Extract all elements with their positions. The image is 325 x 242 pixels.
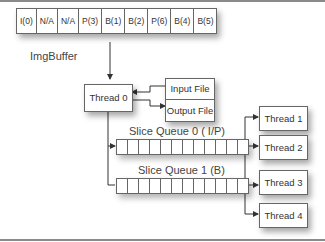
buffer-cell: N/A — [58, 9, 79, 33]
buffer-cell: P(3) — [79, 9, 102, 33]
thread-2-box: Thread 2 — [259, 135, 308, 160]
img-buffer-label: ImgBuffer — [30, 50, 78, 62]
buffer-cell: B(5) — [194, 9, 216, 33]
buffer-cell: B(4) — [171, 9, 194, 33]
thread-3-box: Thread 3 — [259, 170, 308, 195]
thread-0-box: Thread 0 — [84, 84, 133, 112]
buffer-cell: P(6) — [148, 9, 171, 33]
buffer-cell: B(2) — [125, 9, 148, 33]
buffer-cell: B(1) — [102, 9, 125, 33]
output-file-label: Output File — [166, 100, 214, 121]
file-box: Input File Output File — [165, 78, 215, 122]
slice-queue-0 — [116, 139, 249, 155]
img-buffer: I(0) N/A N/A P(3) B(1) B(2) P(6) B(4) B(… — [16, 8, 217, 34]
slice-queue-0-label: Slice Queue 0 ( I/P) — [129, 125, 225, 137]
thread-1-box: Thread 1 — [259, 106, 308, 131]
input-file-label: Input File — [166, 79, 214, 100]
slice-queue-1-label: Slice Queue 1 (B) — [138, 164, 225, 176]
buffer-cell: N/A — [37, 9, 58, 33]
slice-queue-1 — [116, 178, 249, 194]
buffer-cell: I(0) — [17, 9, 37, 33]
thread-4-box: Thread 4 — [259, 203, 308, 228]
